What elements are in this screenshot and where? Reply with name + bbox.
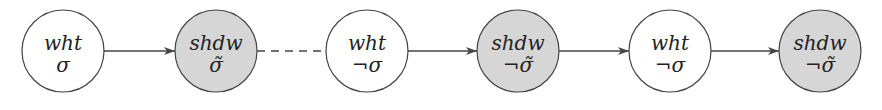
white-node-4: wht¬σ [629,10,711,92]
node-name-label: wht [44,31,83,55]
node-formula-label: ¬σ [655,53,687,77]
node-formula-label: σ̃ [209,53,224,77]
white-node-2: wht¬σ [326,10,408,92]
node-formula-label: ¬σ̃ [503,53,535,77]
node-name-label: shdw [491,31,544,55]
node-formula-label: σ [56,53,71,77]
node-formula-label: ¬σ̃ [805,53,837,77]
node-formula-label: ¬σ [352,53,384,77]
node-name-label: shdw [793,31,846,55]
node-name-label: wht [651,31,690,55]
shadow-node-3: shdw¬σ̃ [477,10,559,92]
white-node-0: whtσ [22,10,104,92]
node-name-label: wht [348,31,387,55]
shadow-node-1: shdwσ̃ [175,10,257,92]
node-name-label: shdw [189,31,242,55]
shadow-node-5: shdw¬σ̃ [779,10,861,92]
state-chain-diagram: whtσshdwσ̃wht¬σshdw¬σ̃wht¬σshdw¬σ̃ [0,0,882,110]
